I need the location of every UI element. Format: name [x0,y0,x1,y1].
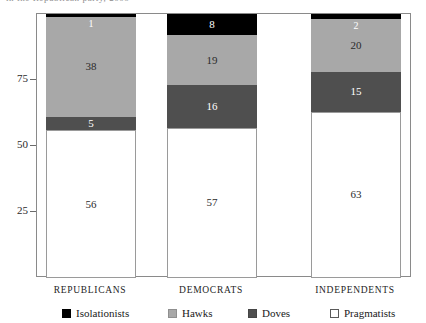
y-axis-tick-label-text: 50 [4,139,28,150]
bar-segment-value: 63 [351,189,362,200]
bar-segment-independents-pragmatists[interactable]: 63 [311,112,401,278]
legend-item-hawks[interactable]: Hawks [168,307,213,319]
bar-segment-democrats-pragmatists[interactable]: 57 [167,128,257,278]
legend-swatch-doves-icon [248,309,257,318]
chart-canvas: in the Republican party, 2009 255075 565… [0,0,426,323]
bar-segment-republicans-isolationists[interactable] [46,14,136,17]
bar-segment-independents-doves[interactable]: 15 [311,72,401,112]
x-axis-label-independents: INDEPENDENTS [285,285,425,295]
bar-segment-value: 8 [209,19,215,30]
legend-item-doves[interactable]: Doves [248,307,290,319]
y-axis-tick-label: 50 [0,139,28,151]
legend-swatch-hawks-icon [168,309,177,318]
cut-off-caption: in the Republican party, 2009 [6,0,206,5]
plot-area: 56538157161986315202 [36,13,411,277]
bar-republicans[interactable]: 565381 [46,14,136,278]
bar-segment-value: 20 [351,40,362,51]
y-axis-tick-label: 75 [0,73,28,85]
legend-label: Isolationists [76,307,129,319]
chart-legend: IsolationistsHawksDovesPragmatists [0,305,426,321]
bar-segment-value: 19 [207,55,218,66]
legend-item-isolationists[interactable]: Isolationists [62,307,129,319]
y-axis-tick-label-text: 75 [4,73,28,84]
bar-segment-democrats-doves[interactable]: 16 [167,85,257,127]
bar-segment-republicans-doves[interactable]: 5 [46,117,136,130]
bar-segment-independents-hawks[interactable]: 20 [311,19,401,72]
bar-segment-democrats-isolationists[interactable]: 8 [167,14,257,35]
bar-segment-value: 5 [88,118,94,129]
x-axis-label-republicans: REPUBLICANS [20,285,160,295]
bar-segment-value: 16 [207,101,218,112]
legend-item-pragmatists[interactable]: Pragmatists [330,307,395,319]
bar-segment-value: 56 [86,199,97,210]
bar-independents[interactable]: 6315202 [311,14,401,278]
bar-democrats[interactable]: 5716198 [167,14,257,278]
bar-segment-independents-isolationists[interactable] [311,14,401,19]
legend-swatch-isolationists-icon [62,309,71,318]
y-axis-tick-label-text: 25 [4,205,28,216]
bar-segment-value: 38 [86,61,97,72]
y-axis-tick-label: 25 [0,205,28,217]
legend-swatch-pragmatists-icon [330,309,339,318]
legend-label: Hawks [182,307,213,319]
legend-label: Pragmatists [344,307,395,319]
legend-label: Doves [262,307,290,319]
x-axis-label-democrats: DEMOCRATS [141,285,281,295]
bar-segment-republicans-hawks[interactable]: 38 [46,17,136,117]
bar-segment-value: 57 [207,197,218,208]
bar-segment-democrats-hawks[interactable]: 19 [167,35,257,85]
bar-segment-value: 15 [351,86,362,97]
bar-segment-republicans-pragmatists[interactable]: 56 [46,130,136,278]
